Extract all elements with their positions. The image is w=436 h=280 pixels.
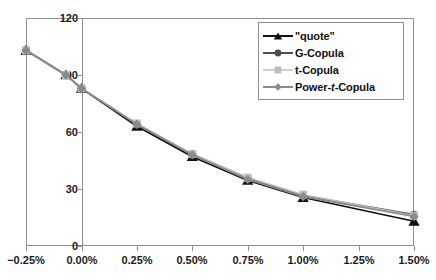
legend-sample-quote — [263, 30, 293, 42]
legend-sample-g-copula — [263, 47, 293, 59]
legend-sample-t-copula — [263, 64, 293, 76]
legend-item-t-copula: t-Copula — [263, 61, 398, 78]
legend: "quote" G-Copula t-Copula Power-t-Copula — [258, 22, 404, 100]
chart-figure: 120 90 60 30 0 −0.25% 0.00% 0.25% 0.50% … — [0, 0, 436, 280]
legend-label-copula: -Copula — [335, 81, 375, 93]
legend-label: Power-t-Copula — [295, 81, 375, 93]
legend-item-quote: "quote" — [263, 27, 398, 44]
legend-sample-power-t-copula — [263, 81, 293, 93]
square-icon — [273, 65, 283, 75]
legend-item-power-t-copula: Power-t-Copula — [263, 78, 398, 95]
legend-item-g-copula: G-Copula — [263, 44, 398, 61]
legend-label: G-Copula — [295, 47, 344, 59]
caption-remnant — [6, 271, 156, 278]
diamond-icon — [273, 82, 283, 92]
legend-label: "quote" — [295, 30, 335, 42]
legend-label: t-Copula — [295, 64, 339, 76]
legend-label-power: Power- — [295, 81, 331, 93]
circle-icon — [273, 48, 283, 58]
triangle-icon — [273, 31, 283, 41]
